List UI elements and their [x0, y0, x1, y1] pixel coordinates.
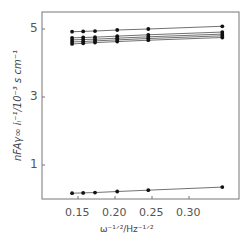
data-point	[93, 191, 97, 195]
axis-ticks	[42, 29, 189, 199]
data-point	[70, 30, 74, 34]
data-point	[115, 40, 119, 44]
data-point	[115, 28, 119, 32]
data-point	[93, 41, 97, 45]
data-point	[70, 42, 74, 46]
data-point	[146, 38, 150, 42]
chart	[0, 0, 252, 241]
data-point	[81, 191, 85, 195]
data-point	[115, 190, 119, 194]
data-point	[220, 36, 224, 40]
y-tick-label: 5	[30, 21, 38, 35]
data-point	[81, 29, 85, 33]
x-tick-label: 0.30	[176, 206, 201, 219]
data-point	[81, 41, 85, 45]
data-point	[146, 188, 150, 192]
data-point	[70, 191, 74, 195]
y-tick-label: 3	[30, 89, 38, 103]
x-axis-label: ω⁻¹ᐟ²/Hz⁻¹ᐟ²	[100, 224, 154, 234]
y-tick-label: 1	[30, 157, 38, 171]
y-axis-label: nFAγ∞ iₗ⁻¹/10⁻³ s cm⁻¹	[12, 21, 23, 191]
x-tick-label: 0.15	[65, 206, 90, 219]
x-tick-label: 0.20	[102, 206, 127, 219]
data-point	[93, 29, 97, 33]
x-tick-label: 0.25	[139, 206, 164, 219]
data-point	[220, 24, 224, 28]
data-points	[70, 24, 224, 195]
data-point	[220, 185, 224, 189]
series-lines	[72, 26, 222, 193]
data-point	[146, 27, 150, 31]
